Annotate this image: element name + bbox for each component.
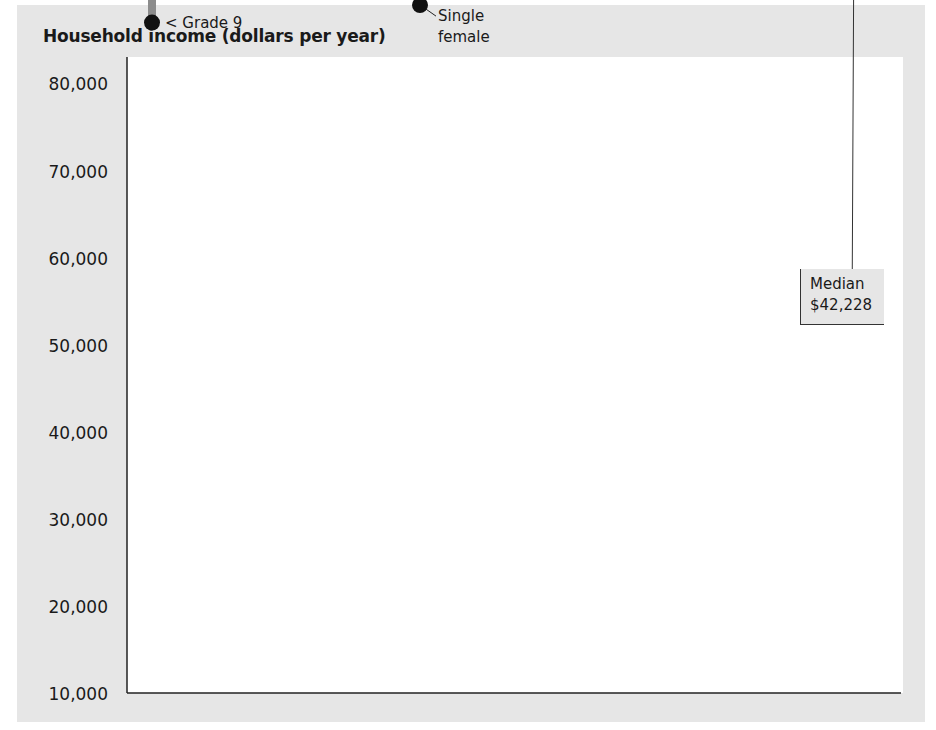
data-label: Single bbox=[438, 7, 484, 25]
chart-svg: Bachelor's degree or higherAssoc. degree… bbox=[0, 0, 936, 730]
median-label: Median bbox=[810, 274, 884, 295]
median-callout: Median $42,228 bbox=[800, 269, 884, 325]
data-label: < Grade 9 bbox=[165, 14, 242, 32]
data-label: female bbox=[438, 28, 490, 46]
data-point bbox=[412, 0, 428, 13]
median-value: $42,228 bbox=[810, 295, 884, 316]
data-point bbox=[144, 15, 160, 31]
leader-line bbox=[426, 9, 436, 16]
